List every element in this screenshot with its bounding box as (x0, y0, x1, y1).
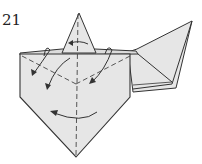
top-triangle-flap (62, 13, 96, 53)
right-wing-flap (128, 21, 192, 92)
origami-diagram (0, 0, 202, 164)
